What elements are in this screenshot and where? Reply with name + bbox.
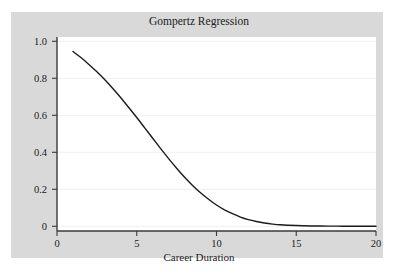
y-tick-label-0.8: 0.8	[34, 73, 47, 84]
x-tick-label-20: 20	[371, 238, 382, 249]
y-tick-label-1.0: 1.0	[34, 36, 47, 47]
x-tick-label-5: 5	[134, 238, 139, 249]
chart-title: Gompertz Regression	[149, 15, 249, 28]
figure-canvas: 1.0 0.8 0.6 0.4 0.2 0 0 5 10 15 20 Gompe…	[0, 0, 398, 280]
x-axis-title: Career Duration	[163, 251, 235, 263]
x-axis-ticks	[57, 231, 376, 236]
y-tick-label-0.4: 0.4	[34, 147, 48, 158]
y-tick-label-0: 0	[42, 221, 47, 232]
x-tick-label-0: 0	[54, 238, 59, 249]
gompertz-regression-chart: 1.0 0.8 0.6 0.4 0.2 0 0 5 10 15 20 Gompe…	[0, 0, 398, 280]
y-tick-label-0.2: 0.2	[34, 184, 47, 195]
x-tick-label-10: 10	[211, 238, 222, 249]
y-axis-ticks	[52, 41, 57, 226]
plot-area-background	[57, 37, 376, 231]
y-tick-label-0.6: 0.6	[34, 110, 47, 121]
x-tick-label-15: 15	[291, 238, 302, 249]
